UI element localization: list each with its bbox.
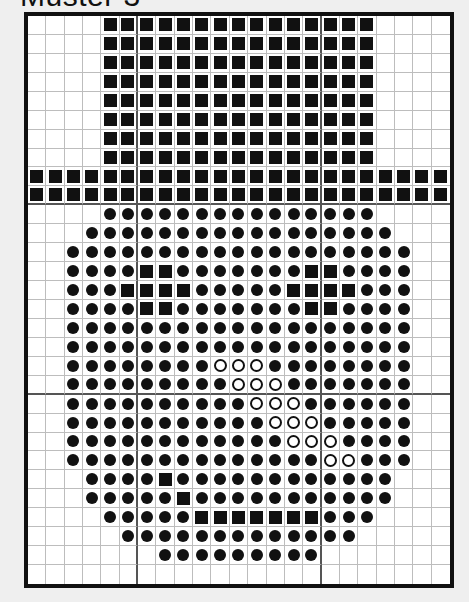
- grid-cell: [101, 111, 119, 130]
- filled-dot-icon: [177, 378, 189, 390]
- filled-square-icon: [250, 132, 263, 145]
- filled-square-icon: [379, 188, 392, 201]
- filled-square-icon: [305, 302, 318, 315]
- grid-cell: [248, 73, 266, 92]
- grid-cell: [322, 565, 340, 584]
- grid-cell: [340, 111, 358, 130]
- grid-cell: [83, 319, 101, 338]
- grid-cell: [120, 92, 138, 111]
- filled-square-icon: [177, 94, 190, 107]
- grid-cell: [193, 205, 211, 224]
- filled-dot-icon: [214, 284, 226, 296]
- filled-dot-icon: [86, 473, 98, 485]
- grid-cell: [395, 262, 413, 281]
- grid-cell: [156, 546, 174, 565]
- grid-cell: [230, 433, 248, 452]
- open-circle-icon: [250, 397, 263, 410]
- grid-cell: [211, 395, 229, 414]
- grid-cell: [248, 395, 266, 414]
- grid-cell: [432, 508, 450, 527]
- grid-cell: [303, 546, 321, 565]
- grid-cell: [322, 92, 340, 111]
- grid-cell: [377, 433, 395, 452]
- grid-cell: [377, 565, 395, 584]
- filled-dot-icon: [269, 454, 281, 466]
- grid-cell: [175, 489, 193, 508]
- filled-square-icon: [195, 188, 208, 201]
- grid-cell: [303, 262, 321, 281]
- grid-cell: [267, 451, 285, 470]
- grid-cell: [65, 376, 83, 395]
- grid-cell: [211, 489, 229, 508]
- grid-cell: [175, 433, 193, 452]
- filled-square-icon: [195, 151, 208, 164]
- grid-cell: [46, 243, 64, 262]
- grid-cell: [28, 167, 46, 186]
- filled-dot-icon: [232, 417, 244, 429]
- grid-cell: [322, 16, 340, 35]
- filled-dot-icon: [122, 246, 134, 258]
- grid-cell: [395, 130, 413, 149]
- filled-dot-icon: [214, 435, 226, 447]
- grid-cell: [120, 54, 138, 73]
- grid-cell: [340, 508, 358, 527]
- grid-cell: [377, 205, 395, 224]
- filled-dot-icon: [324, 322, 336, 334]
- grid-cell: [248, 167, 266, 186]
- grid-cell: [340, 395, 358, 414]
- grid-cell: [156, 262, 174, 281]
- filled-square-icon: [287, 188, 300, 201]
- grid-cell: [395, 224, 413, 243]
- grid-cell: [101, 205, 119, 224]
- filled-dot-icon: [104, 208, 116, 220]
- grid-cell: [120, 470, 138, 489]
- grid-cell: [120, 319, 138, 338]
- filled-square-icon: [269, 170, 282, 183]
- filled-dot-icon: [288, 227, 300, 239]
- filled-dot-icon: [251, 492, 263, 504]
- filled-square-icon: [159, 113, 172, 126]
- filled-square-icon: [250, 113, 263, 126]
- grid-cell: [340, 357, 358, 376]
- grid-cell: [46, 546, 64, 565]
- grid-cell: [156, 205, 174, 224]
- filled-square-icon: [121, 18, 134, 31]
- grid-cell: [377, 186, 395, 205]
- grid-cell: [28, 470, 46, 489]
- grid-cell: [156, 376, 174, 395]
- filled-dot-icon: [379, 360, 391, 372]
- filled-dot-icon: [324, 246, 336, 258]
- grid-cell: [230, 395, 248, 414]
- grid-cell: [175, 357, 193, 376]
- grid-cell: [303, 111, 321, 130]
- grid-cell: [156, 186, 174, 205]
- grid-cell: [230, 546, 248, 565]
- filled-dot-icon: [232, 473, 244, 485]
- grid-cell: [432, 262, 450, 281]
- grid-cell: [303, 167, 321, 186]
- filled-dot-icon: [177, 549, 189, 561]
- grid-cell: [285, 414, 303, 433]
- grid-cell: [303, 186, 321, 205]
- grid-cell: [156, 224, 174, 243]
- filled-square-icon: [305, 113, 318, 126]
- filled-dot-icon: [67, 360, 79, 372]
- filled-dot-icon: [214, 473, 226, 485]
- filled-dot-icon: [122, 473, 134, 485]
- grid-cell: [120, 205, 138, 224]
- filled-dot-icon: [214, 265, 226, 277]
- filled-dot-icon: [361, 378, 373, 390]
- filled-dot-icon: [305, 549, 317, 561]
- grid-cell: [340, 565, 358, 584]
- filled-dot-icon: [196, 454, 208, 466]
- filled-dot-icon: [361, 398, 373, 410]
- filled-dot-icon: [122, 530, 134, 542]
- filled-square-icon: [140, 170, 153, 183]
- grid-cell: [211, 167, 229, 186]
- grid-cell: [65, 111, 83, 130]
- grid-cell: [285, 281, 303, 300]
- grid-cell: [285, 262, 303, 281]
- grid-cell: [395, 281, 413, 300]
- grid-cell: [432, 73, 450, 92]
- filled-square-icon: [305, 511, 318, 524]
